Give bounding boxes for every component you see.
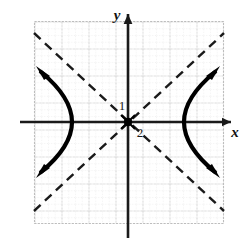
y-tick-label-1: 1: [119, 98, 126, 113]
hyperbola-figure: 1 2 x y: [0, 0, 249, 243]
graph-canvas: 1 2 x y: [0, 0, 249, 243]
x-tick-label-2: 2: [137, 125, 144, 140]
y-axis-label: y: [112, 7, 121, 23]
x-axis-label: x: [230, 124, 239, 140]
